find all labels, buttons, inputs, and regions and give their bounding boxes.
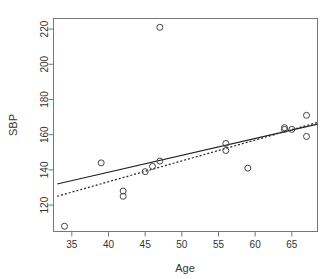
y-axis-ticks: 120140160180200220 — [39, 20, 54, 213]
y-tick-label: 200 — [39, 55, 50, 72]
y-tick-label: 160 — [39, 126, 50, 143]
data-point-marker — [223, 148, 229, 154]
y-tick-label: 120 — [39, 196, 50, 213]
scatter-plot-figure: 120140160180200220 35404550556065 Age SB… — [0, 0, 334, 279]
data-point-marker — [245, 165, 251, 171]
data-point-marker — [304, 112, 310, 118]
y-tick-label: 220 — [39, 20, 50, 37]
fit-line-solid — [57, 124, 317, 184]
y-tick-label: 180 — [39, 91, 50, 108]
data-point-marker — [62, 223, 68, 229]
data-points — [62, 24, 310, 229]
x-tick-label: 55 — [213, 239, 225, 250]
data-point-marker — [157, 24, 163, 30]
x-axis-title: Age — [175, 262, 195, 274]
data-point-marker — [150, 163, 156, 169]
fitted-lines — [57, 122, 317, 196]
x-tick-label: 45 — [140, 239, 152, 250]
y-axis-title: SBP — [7, 114, 19, 136]
y-tick-label: 140 — [39, 161, 50, 178]
plot-frame — [54, 19, 318, 232]
x-tick-label: 40 — [103, 239, 115, 250]
plot-canvas: 120140160180200220 35404550556065 Age SB… — [0, 0, 334, 279]
x-tick-label: 35 — [66, 239, 78, 250]
data-point-marker — [98, 160, 104, 166]
x-tick-label: 50 — [176, 239, 188, 250]
x-tick-label: 60 — [250, 239, 262, 250]
data-point-marker — [304, 133, 310, 139]
x-tick-label: 65 — [286, 239, 298, 250]
x-axis-ticks: 35404550556065 — [66, 232, 298, 250]
